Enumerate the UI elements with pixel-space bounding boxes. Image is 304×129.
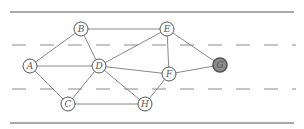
nodes-group: ABCDEFGH — [23, 22, 227, 111]
node-label: B — [77, 24, 85, 34]
node-label: C — [65, 99, 72, 109]
edge-e-f — [167, 36, 168, 67]
node-e: E — [160, 22, 174, 36]
edge-d-f — [106, 67, 162, 73]
edge-a-b — [36, 33, 76, 62]
edge-d-h — [104, 70, 139, 99]
edge-a-c — [35, 71, 63, 99]
edge-f-g — [176, 66, 213, 73]
node-a: A — [23, 59, 37, 73]
node-label: A — [26, 61, 34, 71]
node-h: H — [138, 97, 152, 111]
node-c: C — [61, 97, 75, 111]
node-b: B — [74, 22, 88, 36]
edge-d-e — [105, 32, 161, 62]
graph-diagram: ABCDEFGH — [0, 0, 304, 129]
node-label: H — [140, 99, 149, 109]
node-label: G — [216, 60, 223, 70]
node-f: F — [162, 67, 176, 81]
edges-group — [35, 29, 214, 104]
node-label: D — [94, 61, 102, 71]
edge-b-d — [84, 35, 96, 59]
node-d: D — [92, 59, 106, 73]
node-label: E — [163, 24, 171, 34]
node-g: G — [213, 58, 227, 72]
edge-c-d — [72, 71, 94, 98]
edge-e-g — [173, 33, 214, 61]
node-label: F — [165, 69, 173, 79]
